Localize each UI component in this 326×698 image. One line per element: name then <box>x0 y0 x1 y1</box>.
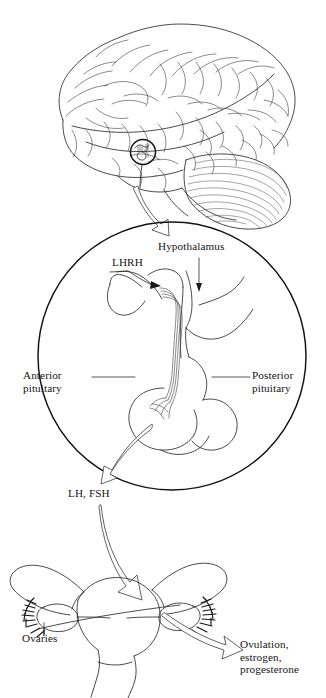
label-hypothalamus: Hypothalamus <box>158 240 224 253</box>
label-ovaries: Ovaries <box>22 632 58 645</box>
arrow-pituitary-to-lhfsh <box>101 424 152 484</box>
uterus-ovaries <box>10 563 227 698</box>
hypothalamus-pituitary-detail <box>38 222 306 490</box>
label-lh-fsh: LH, FSH <box>68 487 110 500</box>
arrow-lhfsh-to-ovary <box>99 505 142 600</box>
anatomical-illustration <box>0 0 326 698</box>
brain-lateral-view <box>59 24 295 229</box>
detail-circle-frame <box>38 222 306 490</box>
arrow-ovary-to-ovulation <box>162 613 243 659</box>
arrow-brain-to-detail-circle <box>133 186 169 236</box>
label-posterior-pituitary: Posterior pituitary <box>252 369 293 394</box>
label-ovulation-hormones: Ovulation, estrogen, progesterone <box>240 638 299 676</box>
label-anterior-pituitary: Anterior pituitary <box>23 369 62 394</box>
figure-canvas: LHRH Hypothalamus Anterior pituitary Pos… <box>0 0 326 698</box>
label-lhrh: LHRH <box>112 256 143 269</box>
